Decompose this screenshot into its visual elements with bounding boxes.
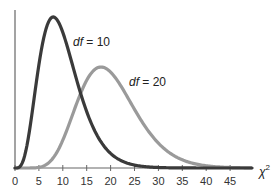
x-axis-label: χ2 (258, 163, 271, 179)
x-tick-label: 30 (152, 175, 164, 187)
x-tick-label: 10 (57, 175, 69, 187)
x-tick-label: 5 (36, 175, 42, 187)
chi-square-chart: 051015202530354045 df = 10 df = 20 χ2 (0, 0, 278, 192)
x-tick-label: 25 (128, 175, 140, 187)
annotation-df-10: df = 10 (73, 35, 110, 49)
x-tick-label: 35 (176, 175, 188, 187)
annotation-df-20: df = 20 (129, 75, 166, 89)
x-tick-label: 20 (104, 175, 116, 187)
x-tick-label: 15 (81, 175, 93, 187)
x-tick-label: 0 (12, 175, 18, 187)
curve-df-10 (15, 17, 252, 168)
x-axis-tick-labels: 051015202530354045 (12, 175, 236, 187)
x-tick-label: 45 (224, 175, 236, 187)
x-tick-label: 40 (200, 175, 212, 187)
